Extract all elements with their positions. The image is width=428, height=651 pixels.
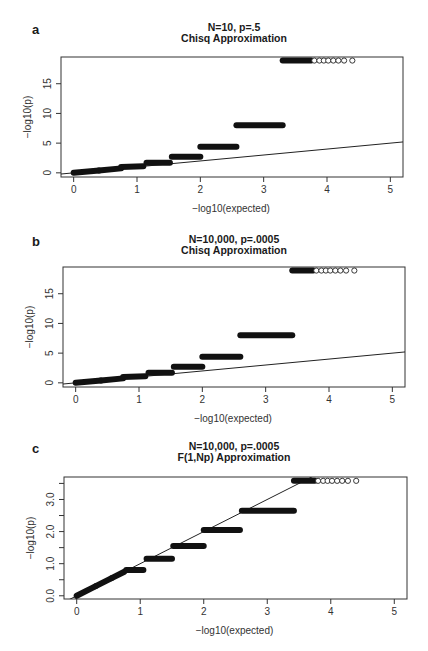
point-cluster (112, 572, 125, 578)
x-tick-label: 5 (392, 606, 398, 617)
x-tick-label: 1 (137, 606, 143, 617)
y-tick-label: 0.0 (45, 588, 56, 602)
x-tick-label: 4 (328, 606, 334, 617)
x-tick-label: 3 (264, 606, 270, 617)
data-point (340, 478, 345, 483)
data-series (64, 429, 407, 602)
y-tick-label: 3.0 (45, 492, 56, 506)
x-axis-label: −log10(expected) (196, 625, 274, 636)
point-cluster (77, 586, 96, 596)
data-point (354, 478, 359, 483)
x-tick-label: 2 (201, 606, 207, 617)
data-point (335, 478, 340, 483)
data-point (329, 478, 334, 483)
plot-area: 0123450.01.02.03.0−log10(expected)−log10… (0, 0, 428, 651)
y-tick-label: 1.0 (45, 556, 56, 570)
x-tick-label: 0 (74, 606, 80, 617)
plot-frame (64, 477, 407, 599)
data-point (345, 478, 350, 483)
y-tick-label: 2.0 (45, 524, 56, 538)
y-axis-label: −log10(p) (25, 517, 36, 560)
panel-c: c N=10,000, p=.0005 F(1,Np) Approximatio… (0, 0, 428, 651)
data-point (315, 478, 320, 483)
